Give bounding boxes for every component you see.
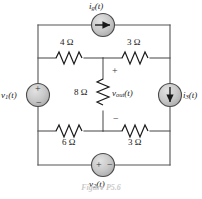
resistor-symbol-top-left	[56, 52, 82, 64]
vout-arg: (t)	[124, 88, 133, 98]
circuit-diagram: 4 Ω 3 Ω 6 Ω 3 Ω 8 Ω vout(t) + − ig(t) v1…	[0, 0, 202, 199]
v1-plus-sign: +	[35, 84, 41, 94]
source-label-i3: i3(t)	[183, 91, 197, 101]
resistor-label-8ohm: 8 Ω	[74, 88, 87, 97]
vout-minus-sign: −	[113, 114, 119, 124]
figure-caption: Figure P5.6	[0, 184, 202, 194]
source-label-ig: ig(t)	[89, 2, 103, 12]
resistor-symbol-top-right	[122, 52, 148, 64]
v2-plus-sign: +	[96, 160, 102, 170]
vout-label: vout(t)	[112, 89, 133, 99]
resistor-symbol-bottom-right	[122, 125, 148, 137]
v1-arg: (t)	[8, 90, 17, 100]
ig-arg: (t)	[95, 1, 104, 11]
resistor-symbol-bottom-left	[56, 125, 82, 137]
v1-minus-sign: −	[36, 98, 42, 108]
source-label-v1: v1(t)	[1, 91, 17, 101]
resistor-symbol-center	[97, 79, 109, 105]
v2-minus-sign: −	[107, 160, 113, 170]
vout-plus-sign: +	[112, 66, 118, 76]
resistor-label-4ohm: 4 Ω	[60, 38, 73, 47]
resistor-label-6ohm: 6 Ω	[62, 138, 75, 147]
resistor-label-3ohm-top: 3 Ω	[127, 38, 140, 47]
resistor-label-3ohm-bottom: 3 Ω	[128, 138, 141, 147]
i3-arg: (t)	[189, 90, 198, 100]
